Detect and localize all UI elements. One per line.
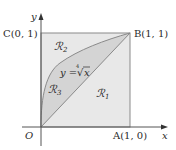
- y-axis-label: y: [30, 11, 37, 22]
- origin-label: O: [25, 130, 33, 141]
- point-c-label: C(0, 1): [3, 28, 38, 39]
- svg-text:x: x: [84, 67, 90, 78]
- svg-text:y =: y =: [59, 67, 77, 78]
- x-axis-label: x: [162, 130, 168, 141]
- y-axis-arrow-icon: [39, 13, 44, 20]
- x-axis-arrow-icon: [161, 125, 168, 130]
- svg-text:√: √: [77, 67, 84, 78]
- point-a-label: A(1, 0): [112, 130, 147, 141]
- point-b-label: B(1, 1): [134, 28, 168, 39]
- region-diagram: y x O C(0, 1) B(1, 1) A(1, 0) ℛ2 ℛ3 ℛ1 y…: [0, 0, 176, 150]
